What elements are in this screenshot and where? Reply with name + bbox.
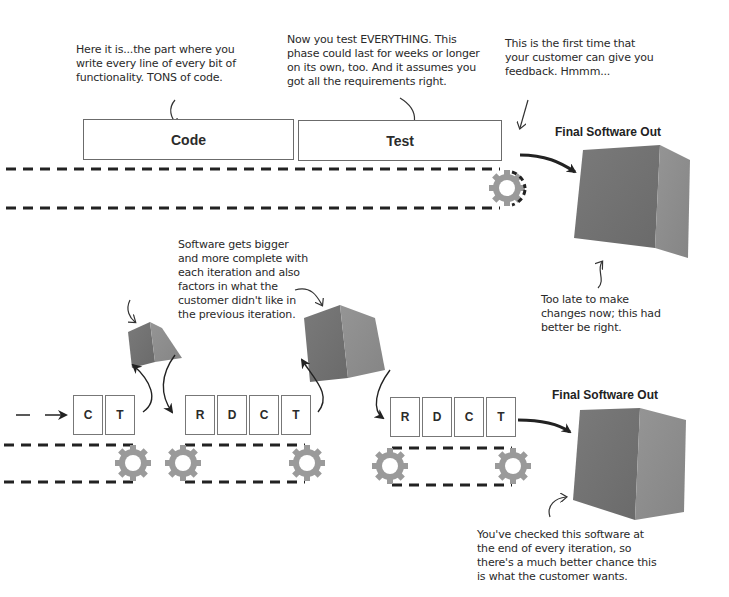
iteration-2-conveyor: [165, 445, 325, 482]
test-annotation: Now you test EVERYTHING. This phase coul…: [287, 33, 480, 89]
arrow-to-final-software: [520, 155, 575, 172]
feedback-annotation: This is the first time that your custome…: [505, 37, 654, 79]
iter2-code-box: C: [249, 395, 279, 435]
iter1-test-box: T: [105, 395, 135, 435]
final-software-box-iterative-icon: [573, 408, 686, 520]
iter3-requirements-box: R: [390, 397, 420, 437]
code-phase-box: Code: [83, 119, 294, 160]
iter1-code-label: C: [84, 408, 93, 422]
waterfall-conveyor: [6, 169, 525, 208]
arrow-too-late: [598, 262, 602, 288]
arrow-iter2-in: [163, 355, 175, 412]
process-comparison-diagram: Here it is...the part where you write ev…: [0, 0, 729, 597]
final-software-label: Final Software Out: [555, 125, 661, 139]
gear-icon: [495, 448, 531, 484]
iter3-code-box: C: [454, 397, 484, 437]
gear-icon: [115, 445, 151, 481]
gear-icon: [165, 445, 201, 481]
iter2-requirements-box: R: [185, 395, 215, 435]
iteration-1-software-box-icon: [128, 322, 182, 368]
arrow-feedback: [520, 100, 528, 128]
iter3-code-label: C: [465, 410, 474, 424]
gear-icon: [289, 445, 325, 481]
arrow-iter3-in: [376, 370, 390, 418]
iter2-design-box: D: [217, 395, 247, 435]
too-late-annotation: Too late to make changes now; this had b…: [541, 293, 661, 335]
iter2-requirements-label: R: [196, 408, 205, 422]
final-software-iterative-label: Final Software Out: [552, 388, 658, 402]
iter1-code-box: C: [73, 395, 103, 435]
gear-icon: [372, 448, 408, 484]
arrow-checked: [549, 497, 566, 517]
final-software-box-icon: [574, 145, 690, 258]
iter2-design-label: D: [228, 408, 237, 422]
iter3-requirements-label: R: [401, 410, 410, 424]
growth-annotation: Software gets bigger and more complete w…: [178, 238, 308, 322]
code-annotation: Here it is...the part where you write ev…: [76, 43, 236, 85]
iter3-test-label: T: [497, 410, 504, 424]
checked-annotation: You've checked this software at the end …: [477, 528, 656, 584]
iter3-test-box: T: [486, 397, 516, 437]
arrow-iter1-up: [133, 365, 152, 412]
iteration-3-conveyor: [372, 448, 531, 485]
iteration-2-software-box-icon: [304, 305, 385, 382]
iter1-test-label: T: [116, 408, 123, 422]
arrow-to-final-software-iterative: [518, 420, 570, 432]
test-phase-label: Test: [386, 133, 414, 149]
iter2-code-label: C: [260, 408, 269, 422]
code-phase-label: Code: [171, 132, 206, 148]
iter3-design-box: D: [422, 397, 452, 437]
test-phase-box: Test: [298, 120, 502, 161]
iter3-design-label: D: [433, 410, 442, 424]
iter2-test-label: T: [292, 408, 299, 422]
iter2-test-box: T: [281, 395, 311, 435]
